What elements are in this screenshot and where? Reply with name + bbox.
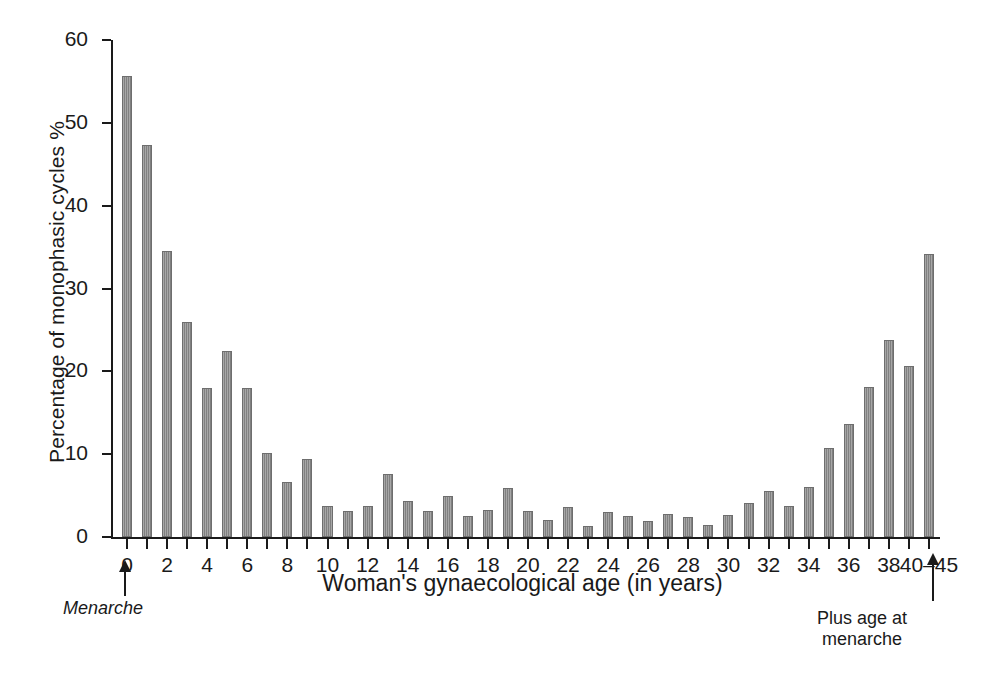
bar (242, 388, 252, 537)
x-axis-tick (286, 539, 288, 549)
bar (784, 506, 794, 537)
menarche-label: Menarche (63, 598, 143, 619)
x-axis-title-text: Woman's gynaecological age (in years) (322, 570, 722, 596)
x-axis-tick (727, 539, 729, 549)
bar (162, 251, 172, 537)
bar (403, 501, 413, 537)
bar (543, 520, 553, 537)
x-axis-title: Woman's gynaecological age (in years) (0, 570, 989, 597)
bar (202, 388, 212, 537)
x-axis-tick (166, 539, 168, 549)
x-axis-tick (908, 539, 910, 549)
x-axis-tick (407, 539, 409, 549)
y-axis-tick-label: 50 (65, 110, 88, 134)
x-axis-tick (327, 539, 329, 549)
bar (764, 491, 774, 537)
y-axis-tick: 40 (102, 205, 111, 207)
bar (884, 340, 894, 537)
bar (262, 453, 272, 537)
chart-figure: Percentage of monophasic cycles % 010203… (0, 0, 989, 675)
x-axis-tick (607, 539, 609, 549)
bar (683, 517, 693, 537)
bar (363, 506, 373, 537)
plot-area: 0102030405060 02468101214161820222426283… (111, 40, 940, 537)
y-axis-tick: 20 (102, 370, 111, 372)
bar (483, 510, 493, 537)
y-axis-tick: 30 (102, 288, 111, 290)
bar (663, 514, 673, 537)
x-axis-tick (808, 539, 810, 549)
bar (142, 145, 152, 537)
y-axis-tick-label: 20 (65, 358, 88, 382)
bar (723, 515, 733, 537)
bar (924, 254, 934, 537)
bar (563, 507, 573, 537)
x-axis-tick (788, 539, 790, 549)
y-axis-tick: 60 (102, 39, 111, 41)
x-axis-tick (347, 539, 349, 549)
bar (744, 503, 754, 537)
x-axis-tick (527, 539, 529, 549)
x-axis-tick (768, 539, 770, 549)
x-axis-tick (868, 539, 870, 549)
bar (322, 506, 332, 537)
x-axis-tick (206, 539, 208, 549)
x-axis-tick (507, 539, 509, 549)
x-axis-tick (647, 539, 649, 549)
bar (703, 525, 713, 537)
y-axis-tick: 10 (102, 453, 111, 455)
x-axis-tick (427, 539, 429, 549)
x-axis-tick (246, 539, 248, 549)
x-axis-tick (667, 539, 669, 549)
x-axis-tick (547, 539, 549, 549)
y-axis-tick: 0 (102, 536, 111, 538)
bar (222, 351, 232, 537)
y-axis-tick-label: 30 (65, 276, 88, 300)
x-axis-tick (266, 539, 268, 549)
y-axis-line (111, 40, 113, 538)
y-axis-tick-label: 40 (65, 193, 88, 217)
bar (302, 459, 312, 537)
plus-age-line-1: Plus age at (782, 608, 942, 629)
plus-age-line-2: menarche (782, 629, 942, 650)
x-axis-tick (848, 539, 850, 549)
bar (583, 526, 593, 537)
plus-age-at-menarche-label: Plus age at menarche (782, 608, 942, 649)
bar (904, 366, 914, 537)
x-axis-tick (888, 539, 890, 549)
menarche-arrow-icon (117, 560, 133, 596)
y-axis-tick-label: 60 (65, 27, 88, 51)
x-axis-tick (627, 539, 629, 549)
bar (463, 516, 473, 537)
bar (443, 496, 453, 537)
bar (122, 76, 132, 537)
bar (804, 487, 814, 537)
x-axis-tick (487, 539, 489, 549)
x-axis-tick (748, 539, 750, 549)
x-axis-tick (186, 539, 188, 549)
bar (503, 488, 513, 537)
bar (844, 424, 854, 537)
bar (623, 516, 633, 537)
bar (523, 511, 533, 538)
bar (864, 387, 874, 537)
x-axis-tick (928, 539, 930, 549)
x-axis-tick (126, 539, 128, 549)
bar (643, 521, 653, 537)
x-axis-tick (146, 539, 148, 549)
bar (282, 482, 292, 537)
x-axis-tick (367, 539, 369, 549)
bar (383, 474, 393, 537)
x-axis-tick (306, 539, 308, 549)
bar (423, 511, 433, 537)
x-axis-tick (828, 539, 830, 549)
bar (824, 448, 834, 537)
bar (343, 511, 353, 537)
x-axis-line (111, 537, 940, 539)
x-axis-tick (687, 539, 689, 549)
x-axis-tick (226, 539, 228, 549)
x-axis-tick (387, 539, 389, 549)
x-axis-tick (467, 539, 469, 549)
x-axis-tick (587, 539, 589, 549)
x-axis-tick (707, 539, 709, 549)
